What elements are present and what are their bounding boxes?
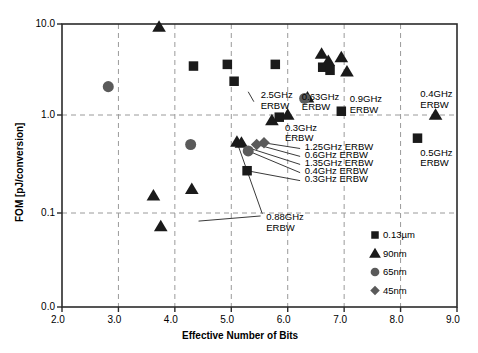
x-tick-label: 4.0 xyxy=(164,314,178,325)
annotation-ann-0-3ghz-b: 0.3GHz ERBW xyxy=(305,174,368,185)
leader-2-5ghz xyxy=(248,92,254,102)
y-tick-label: 1.0 xyxy=(21,109,55,120)
data-point-square xyxy=(242,166,252,176)
x-tick-label: 6.0 xyxy=(277,314,291,325)
data-point-circle xyxy=(371,268,380,277)
legend-item-65nm: 65nm xyxy=(383,266,407,277)
data-point-diamond xyxy=(370,286,380,296)
data-point-square xyxy=(371,231,379,239)
annotation-ann-0-5ghz: 0.5GHz ERBW xyxy=(420,148,452,169)
data-point-circle xyxy=(185,139,196,150)
data-point-square xyxy=(413,133,423,143)
data-point-triangle xyxy=(152,20,166,32)
leader-0-88ghz-b xyxy=(199,216,261,221)
data-point-circle xyxy=(103,81,114,92)
annotation-ann-0-4ghz: 0.4GHz ERBW xyxy=(420,89,452,110)
y-tick-label: 0.0 xyxy=(21,301,55,312)
data-point-square xyxy=(271,60,281,70)
x-tick-label: 5.0 xyxy=(220,314,234,325)
data-point-triangle xyxy=(147,189,161,201)
data-point-square xyxy=(229,76,239,86)
data-point-square xyxy=(325,66,335,76)
annotation-ann-0-63ghz: 0.63GHz ERBW xyxy=(302,92,340,113)
y-tick-label: 0.1 xyxy=(21,207,55,218)
y-tick-label: 10.0 xyxy=(21,18,55,29)
data-point-triangle xyxy=(369,248,381,258)
data-point-triangle xyxy=(340,65,354,77)
legend-item-90nm: 90nm xyxy=(383,248,407,259)
annotation-ann-2-5ghz: 2.5GHz ERBW xyxy=(261,90,293,111)
x-tick-label: 2.0 xyxy=(51,314,65,325)
x-tick-label: 7.0 xyxy=(333,314,347,325)
data-point-square xyxy=(189,61,199,71)
plot-surface xyxy=(0,0,478,353)
y-axis-title: FOM [pJ/conversion] xyxy=(14,123,25,222)
data-point-triangle xyxy=(185,182,199,194)
x-tick-label: 9.0 xyxy=(446,314,460,325)
x-tick-label: 8.0 xyxy=(390,314,404,325)
data-point-triangle xyxy=(335,51,349,63)
series-45nm xyxy=(251,137,270,150)
annotation-ann-0-88ghz: 0.88GHz ERBW xyxy=(266,212,304,233)
data-point-circle xyxy=(243,145,254,156)
data-point-triangle xyxy=(154,220,168,232)
data-point-triangle xyxy=(315,47,329,59)
scatter-chart: 2.5GHz ERBW0.63GHz ERBW0.9GHz ERBW0.4GHz… xyxy=(0,0,478,353)
plot-frame xyxy=(62,24,457,307)
leader-0-3ghz-b xyxy=(247,171,300,181)
legend-markers xyxy=(368,228,382,304)
data-point-square xyxy=(223,60,233,70)
x-tick-label: 3.0 xyxy=(107,314,121,325)
legend-item-0-13-m: 0.13µm xyxy=(383,229,415,240)
x-axis-title: Effective Number of Bits xyxy=(182,330,298,341)
annotation-ann-0-9ghz: 0.9GHz ERBW xyxy=(350,94,382,115)
legend-item-45nm: 45nm xyxy=(383,285,407,296)
